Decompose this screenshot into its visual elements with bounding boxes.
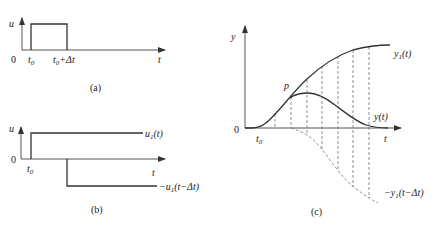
- panel-c-point-p-label: p: [283, 80, 289, 91]
- panel-c-t0-label: t0: [256, 133, 263, 146]
- panel-b-negative-step: [67, 159, 157, 186]
- panel-c-negative-label: −y1(t−Δt): [384, 187, 424, 200]
- panel-b-t0-label: t0: [27, 163, 34, 176]
- panel-b: u 0 t0 t u1(t) −u1(t−Δt) (b): [9, 123, 200, 216]
- panel-a-y-label: u: [9, 18, 14, 29]
- panel-c-negative-y1-curve: [291, 128, 378, 203]
- panel-b-upper-label: u1(t): [145, 128, 164, 141]
- panel-a-caption: (a): [90, 82, 101, 94]
- panel-c-x-label: t: [384, 133, 387, 144]
- panel-b-lower-label: −u1(t−Δt): [159, 181, 200, 194]
- panel-a-rectangular-pulse: [31, 24, 67, 50]
- panel-b-positive-step: [31, 133, 143, 159]
- panel-c-point-p: [290, 96, 292, 98]
- panel-a-x-label: t: [158, 54, 161, 65]
- panel-c-y-label: y: [230, 31, 236, 42]
- panel-c-y1-label: y1(t): [393, 48, 412, 61]
- panel-b-x-label: t: [152, 167, 155, 178]
- panel-c-y-curve-label: y(t): [373, 111, 389, 123]
- panel-a: u 0 t0 t0+Δt t (a): [9, 18, 165, 94]
- panel-a-origin-label: 0: [11, 54, 16, 65]
- panel-c-y1-curve: [245, 45, 390, 128]
- step-response-diagram: u 0 t0 t0+Δt t (a) u 0 t0 t u1(t) −u1(t−…: [0, 0, 435, 227]
- panel-c-caption: (c): [311, 206, 322, 218]
- panel-a-t0-label: t0: [28, 54, 35, 67]
- panel-b-y-label: u: [9, 123, 14, 134]
- panel-c: y 0 t0 t p y1(t) y(t) −y1(t−Δt) (c): [230, 26, 424, 218]
- panel-a-t0-plus-dt-label: t0+Δt: [53, 54, 75, 67]
- panel-b-caption: (b): [91, 204, 103, 216]
- panel-c-origin-label: 0: [234, 124, 239, 135]
- panel-b-origin-label: 0: [11, 154, 16, 165]
